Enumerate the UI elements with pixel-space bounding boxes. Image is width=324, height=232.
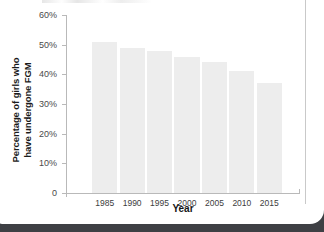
bar [174,57,199,193]
y-axis-tick-label: 20% [39,129,57,139]
y-axis-title: Percentage of girls who have undergone F… [4,30,38,190]
y-axis-line [66,15,67,197]
y-axis-title-line-1: Percentage of girls who [10,58,21,163]
y-axis-tick-label: 60% [39,10,57,20]
y-axis-tick-label-wrap: 50% [62,45,63,46]
y-axis-tick-label-wrap: 20% [62,134,63,135]
bar [229,71,254,193]
x-axis-line [66,193,300,194]
y-axis-tick-label-wrap: 10% [62,163,63,164]
y-axis-title-text: Percentage of girls who have undergone F… [10,58,33,163]
y-axis-tick-label-wrap: 40% [62,74,63,75]
x-axis-cap-right [299,189,300,194]
plot-area: 010%20%30%40%50%60% 19851990199520002005… [66,12,300,195]
bar [257,83,282,193]
y-axis-tick-label-wrap: 0 [62,193,63,194]
bar [92,42,117,193]
y-axis-tick-label-wrap: 30% [62,104,63,105]
y-axis-tick-label: 0 [52,188,57,198]
clipped-title-artifact [42,0,152,3]
y-axis-title-line-2: have undergone FGM [21,62,32,157]
x-axis-title: Year [66,203,300,214]
y-axis-tick-label: 50% [39,40,57,50]
y-axis-tick-label: 10% [39,158,57,168]
y-axis-tick-label-wrap: 60% [62,15,63,16]
bar [120,48,145,193]
bar-chart-figure: Percentage of girls who have undergone F… [0,0,324,232]
bar [147,51,172,193]
bar [202,62,227,193]
y-axis-tick-label: 40% [39,69,57,79]
y-axis-tick-label: 30% [39,99,57,109]
